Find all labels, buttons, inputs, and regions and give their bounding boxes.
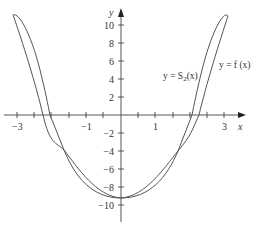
y-axis: y 10 8 6 4 2 −2 −4 −6 −8 −10: [98, 7, 124, 222]
x-tick-label: −1: [81, 121, 92, 132]
curve-f: [13, 15, 228, 198]
y-axis-arrow-icon: [118, 8, 124, 17]
y-tick-label: −10: [98, 200, 114, 211]
y-axis-label: y: [108, 7, 114, 18]
x-axis-arrow-icon: [238, 112, 246, 118]
x-tick-label: 3: [222, 121, 227, 132]
s2-curve-label: y = S2(x): [163, 71, 198, 83]
y-tick-label: 6: [109, 56, 114, 67]
y-tick-label: −2: [103, 128, 114, 139]
chart: −3 −1 1 3 x y 10 8 6 4 2 −2 −4 −6 −8 −10: [0, 0, 253, 234]
y-tick-label: −8: [103, 182, 114, 193]
y-tick-label: 4: [109, 74, 114, 85]
y-tick-label: 2: [109, 92, 114, 103]
x-axis-label: x: [237, 121, 243, 132]
x-axis: −3 −1 1 3 x: [4, 112, 246, 132]
curve-s2: [13, 15, 228, 198]
f-curve-label: y = f (x): [219, 60, 250, 71]
y-tick-label: −6: [103, 164, 114, 175]
x-tick-label: −3: [12, 121, 23, 132]
y-tick-label: 10: [104, 20, 114, 31]
x-tick-label: 1: [153, 121, 158, 132]
y-tick-label: 8: [109, 38, 114, 49]
y-tick-label: −4: [103, 146, 114, 157]
